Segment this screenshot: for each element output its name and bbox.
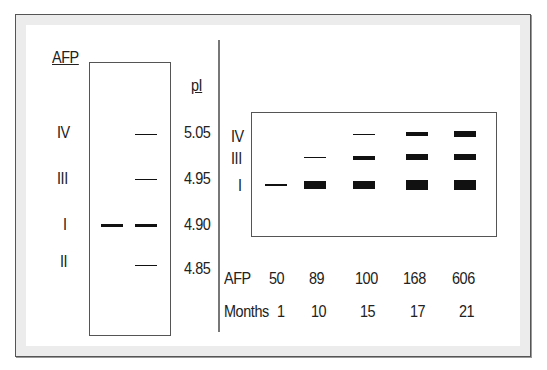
band-label-i: I [63, 216, 67, 233]
pi-value-4-95: 4.95 [184, 170, 210, 187]
band-iii-month21 [454, 154, 476, 160]
months-row-label: Months [224, 303, 269, 320]
left-gel-lane-box [89, 62, 171, 336]
pi-scale-title: pI [191, 77, 202, 94]
band-i-month10 [304, 181, 326, 189]
band-iii-month10 [304, 157, 326, 158]
band-iv-lane2 [135, 134, 157, 135]
afp-row-label: AFP [224, 270, 251, 287]
months-value-4: 17 [410, 303, 425, 320]
band-iv-month15 [353, 134, 375, 135]
band-i-month21 [454, 180, 476, 190]
band-i-month1 [265, 184, 287, 186]
panel-divider [218, 40, 220, 332]
band-iv-month17 [406, 132, 428, 136]
months-value-1: 1 [277, 303, 285, 320]
left-afp-title: AFP [52, 49, 79, 66]
right-band-label-iv: IV [231, 128, 244, 145]
band-iii-month17 [406, 154, 428, 160]
afp-value-3: 100 [355, 270, 378, 287]
right-band-label-i: I [238, 177, 242, 194]
months-value-3: 15 [360, 303, 375, 320]
right-band-label-iii: III [231, 150, 242, 167]
band-i-lane2 [135, 224, 157, 227]
afp-value-5: 606 [452, 270, 475, 287]
band-iii-lane2 [135, 179, 157, 180]
band-i-month15 [353, 181, 375, 189]
pi-value-4-85: 4.85 [184, 260, 210, 277]
months-value-2: 10 [311, 303, 326, 320]
months-value-5: 21 [459, 303, 474, 320]
band-label-iii: III [57, 170, 68, 187]
afp-value-2: 89 [309, 270, 324, 287]
band-label-ii: II [60, 253, 67, 270]
band-i-lane1 [101, 224, 123, 227]
pi-value-5-05: 5.05 [184, 124, 210, 141]
band-iii-month15 [353, 156, 375, 160]
pi-value-4-90: 4.90 [184, 216, 210, 233]
band-iv-month21 [454, 131, 476, 137]
band-label-iv: IV [57, 124, 70, 141]
band-ii-lane2 [135, 265, 157, 266]
afp-value-1: 50 [269, 270, 284, 287]
band-i-month17 [406, 180, 428, 190]
afp-value-4: 168 [403, 270, 426, 287]
